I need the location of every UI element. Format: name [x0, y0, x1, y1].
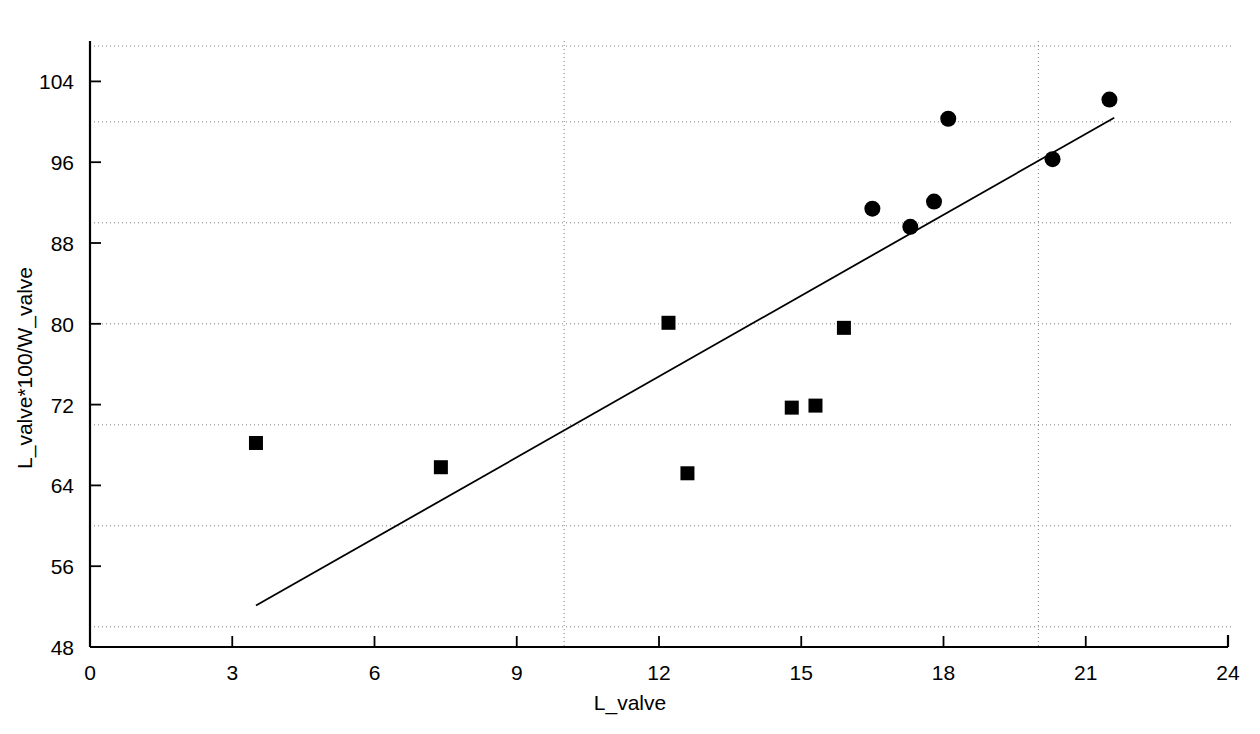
data-point-square: [680, 466, 694, 480]
data-point-circle: [1045, 151, 1061, 167]
chart-figure: 03691215182124 48566472808896104 L_valve…: [0, 0, 1260, 734]
y-tick-label: 104: [39, 70, 74, 93]
data-point-circle: [1101, 92, 1117, 108]
x-tick-label: 6: [369, 661, 381, 684]
trend-line: [256, 118, 1114, 606]
x-tick-label: 9: [511, 661, 523, 684]
vertical-gridlines: [564, 41, 1038, 647]
x-tick-labels: 03691215182124: [84, 661, 1240, 684]
data-point-square: [785, 401, 799, 415]
regression-line: [256, 118, 1114, 606]
y-axis-title: L_valve*100/W_valve: [13, 267, 37, 469]
data-point-square: [661, 316, 675, 330]
data-point-square: [808, 399, 822, 413]
x-tick-label: 3: [226, 661, 238, 684]
data-point-circle: [926, 194, 942, 210]
data-point-square: [434, 460, 448, 474]
x-tick-label: 0: [84, 661, 96, 684]
y-tick-label: 56: [51, 555, 74, 578]
data-point-square: [249, 436, 263, 450]
scatter-plot-svg: 03691215182124 48566472808896104 L_valve…: [0, 0, 1260, 734]
horizontal-gridlines: [90, 46, 1232, 627]
tick-marks: [90, 81, 1228, 647]
data-point-square: [837, 321, 851, 335]
y-tick-label: 96: [51, 151, 74, 174]
x-tick-label: 18: [932, 661, 955, 684]
circle-markers: [864, 92, 1117, 235]
data-point-circle: [902, 219, 918, 235]
y-tick-label: 80: [51, 313, 74, 336]
y-tick-labels: 48566472808896104: [39, 70, 74, 659]
x-tick-label: 21: [1074, 661, 1097, 684]
square-markers: [249, 316, 851, 480]
y-tick-label: 88: [51, 232, 74, 255]
y-tick-label: 72: [51, 394, 74, 417]
y-tick-label: 48: [51, 636, 74, 659]
x-tick-label: 24: [1216, 661, 1240, 684]
data-point-circle: [940, 111, 956, 127]
data-point-circle: [864, 201, 880, 217]
axes: [90, 41, 1228, 647]
x-tick-label: 15: [790, 661, 813, 684]
x-axis-title: L_valve: [594, 691, 666, 715]
x-tick-label: 12: [647, 661, 670, 684]
y-tick-label: 64: [51, 474, 75, 497]
